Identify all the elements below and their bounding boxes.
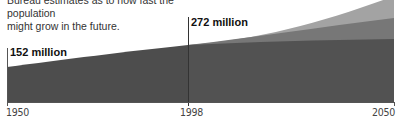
low-projection-area (188, 39, 394, 102)
tick-label-1998: 1998 (180, 106, 203, 118)
value-label-1950: 152 million (10, 46, 67, 58)
tick-label-2050: 2050 (372, 106, 395, 118)
tick-label-1950: 1950 (6, 106, 29, 118)
value-label-1998: 272 million (191, 16, 248, 28)
